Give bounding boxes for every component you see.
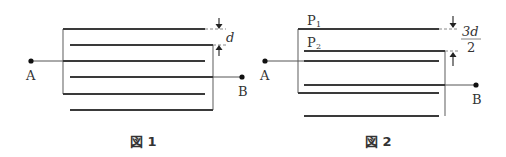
- capacitor-diagrams: A B d 図 1 P 1 P 2 A B: [0, 0, 506, 157]
- fig1-label-b: B: [238, 84, 248, 99]
- fig2-terminal-b-dot: [473, 82, 478, 87]
- fig1-terminal-b-dot: [239, 74, 244, 79]
- fig2-label-p2: P: [307, 35, 316, 50]
- fig1-label-a: A: [25, 68, 36, 83]
- fig2-label-p1: P: [307, 13, 316, 28]
- figure-1: A B d 図 1: [25, 18, 248, 149]
- fig2-label-a: A: [259, 68, 270, 83]
- figure-2: P 1 P 2 A B 3d 2 図 2: [259, 13, 482, 149]
- fig2-spacing-denominator: 2: [467, 40, 475, 55]
- fig1-terminal-a-dot: [28, 58, 33, 63]
- fig1-caption: 図 1: [130, 134, 157, 149]
- fig2-label-p2-sub: 2: [316, 42, 321, 51]
- fig2-spacing-numerator: 3d: [462, 24, 479, 39]
- fig2-terminal-a-dot: [262, 58, 267, 63]
- fig2-caption: 図 2: [365, 134, 392, 149]
- fig1-spacing-label: d: [226, 30, 234, 45]
- fig2-label-p1-sub: 1: [316, 20, 321, 29]
- fig2-label-b: B: [472, 92, 482, 107]
